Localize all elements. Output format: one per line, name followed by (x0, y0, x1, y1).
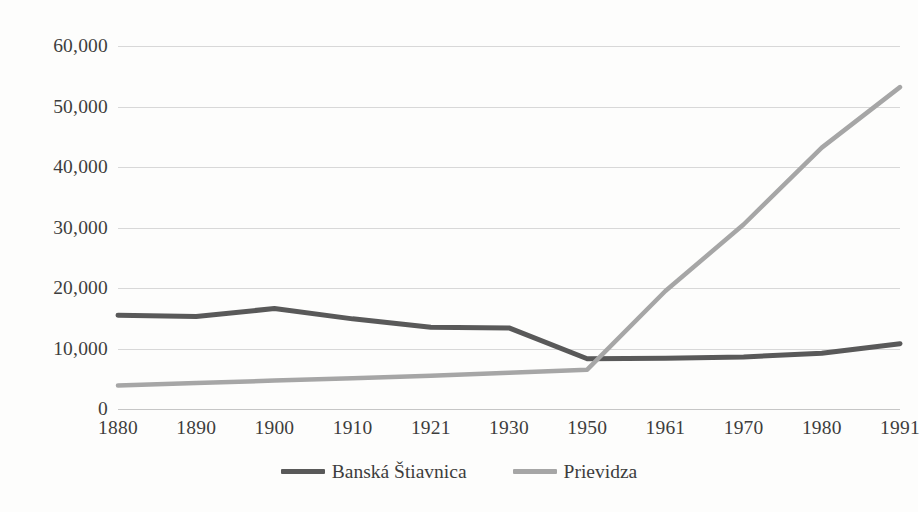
series-line-bansk-tiavnica (118, 309, 900, 359)
x-axis-tick-label: 1970 (724, 418, 764, 438)
chart-legend: Banská ŠtiavnicaPrievidza (0, 462, 918, 482)
y-axis-tick-label: 20,000 (53, 278, 108, 298)
plot-area (118, 46, 900, 409)
y-axis-tick-label: 30,000 (53, 218, 108, 238)
gridline (118, 409, 900, 410)
y-axis-tick-label: 60,000 (53, 36, 108, 56)
x-axis-tick-label: 1980 (802, 418, 842, 438)
x-axis-tick-label: 1880 (98, 418, 138, 438)
x-axis-tick-label: 1910 (333, 418, 373, 438)
series-line-prievidza (118, 87, 900, 385)
series-lines (118, 46, 900, 409)
x-axis-tick-label: 1921 (411, 418, 451, 438)
x-axis-tick-label: 1950 (567, 418, 607, 438)
legend-item[interactable]: Banská Štiavnica (281, 462, 467, 482)
x-axis-tick-label: 1930 (489, 418, 529, 438)
legend-item-label: Banská Štiavnica (332, 462, 467, 482)
x-axis-tick-label: 1991 (880, 418, 920, 438)
x-axis-tick-label: 1961 (645, 418, 685, 438)
legend-swatch-icon (281, 469, 325, 474)
legend-item-label: Prievidza (564, 462, 638, 482)
y-axis-tick-label: 40,000 (53, 157, 108, 177)
y-axis-tick-label: 50,000 (53, 97, 108, 117)
y-axis-tick-label: 10,000 (53, 339, 108, 359)
legend-item[interactable]: Prievidza (513, 462, 638, 482)
legend-swatch-icon (513, 469, 557, 474)
y-axis-tick-label: 0 (98, 399, 108, 419)
x-axis-tick-label: 1900 (254, 418, 294, 438)
x-axis-tick-label: 1890 (176, 418, 216, 438)
x-axis: 1880189019001910192119301950196119701980… (118, 418, 900, 446)
y-axis: 60,00050,00040,00030,00020,00010,0000 (0, 46, 108, 409)
